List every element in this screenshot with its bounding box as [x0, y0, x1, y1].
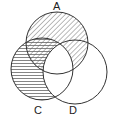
label-d: D: [69, 105, 77, 116]
venn-diagram: [0, 0, 113, 119]
label-a: A: [53, 1, 60, 12]
label-c: C: [34, 105, 42, 116]
